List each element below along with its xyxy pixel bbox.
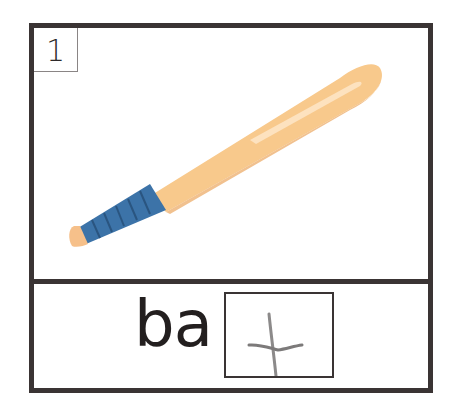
card-number: 1 bbox=[46, 36, 65, 66]
baseball-bat-icon bbox=[34, 28, 428, 279]
word-row: ba bbox=[34, 284, 428, 388]
picture-panel bbox=[34, 28, 428, 279]
phonics-card: 1 ba bbox=[29, 23, 433, 393]
answer-box[interactable] bbox=[224, 292, 334, 378]
handwritten-t-icon bbox=[226, 294, 332, 376]
word-prefix: ba bbox=[134, 292, 212, 356]
card-number-box: 1 bbox=[34, 28, 78, 72]
